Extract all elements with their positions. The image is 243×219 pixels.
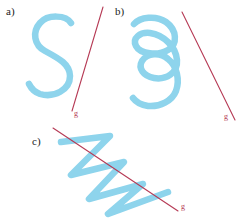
panel-a-line-g [72, 7, 103, 111]
figure-canvas: a) b) c) g g g [0, 0, 243, 219]
panel-label-b: b) [115, 6, 124, 17]
figure-svg [0, 0, 243, 219]
panel-a-s-curve [29, 17, 71, 95]
panel-b-spiral-coil-curve [133, 18, 178, 106]
panel-c-g-line-label: g [181, 203, 185, 211]
panel-b-line-g [182, 12, 235, 120]
panel-label-c: c) [32, 136, 41, 147]
panel-a-g-line-label: g [74, 110, 78, 118]
panel-label-a: a) [6, 6, 15, 17]
panel-b-g-line-label: g [224, 113, 228, 121]
panel-c-zigzag-curve [61, 136, 168, 214]
panel-c-line-g [53, 128, 178, 211]
